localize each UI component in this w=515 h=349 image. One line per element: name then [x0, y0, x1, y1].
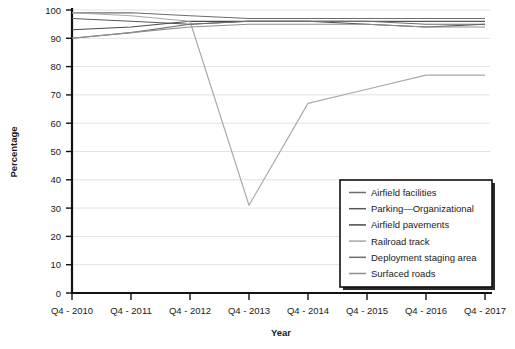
y-tick-label: 0 — [56, 288, 61, 299]
chart-canvas: 100 90 80 70 60 50 40 30 20 10 0 Percent… — [0, 0, 515, 349]
legend-entry-label: Railroad track — [371, 236, 430, 247]
x-tick-label: Q4 - 2014 — [287, 305, 329, 316]
legend-entry-label: Airfield facilities — [371, 187, 437, 198]
x-tick-label: Q4 - 2013 — [228, 305, 270, 316]
x-axis-title: Year — [271, 327, 291, 338]
y-tick-label: 100 — [45, 5, 61, 16]
legend-entry-label: Surfaced roads — [371, 268, 436, 279]
y-tick-labels: 100 90 80 70 60 50 40 30 20 10 0 — [45, 5, 61, 299]
x-tick-label: Q4 - 2015 — [346, 305, 388, 316]
y-tick-label: 70 — [50, 89, 61, 100]
y-tick-label: 80 — [50, 61, 61, 72]
y-tick-label: 30 — [50, 203, 61, 214]
x-tick-label: Q4 - 2012 — [169, 305, 211, 316]
x-tick-label: Q4 - 2011 — [110, 305, 152, 316]
y-tick-label: 60 — [50, 118, 61, 129]
x-tick-labels: Q4 - 2010 Q4 - 2011 Q4 - 2012 Q4 - 2013 … — [51, 305, 506, 316]
y-tick-label: 40 — [50, 174, 61, 185]
x-tick-label: Q4 - 2017 — [464, 305, 506, 316]
y-tick-label: 90 — [50, 33, 61, 44]
legend-entry-label: Deployment staging area — [371, 252, 477, 263]
series-layer — [72, 13, 485, 206]
legend-entry-label: Parking—Organizational — [371, 203, 474, 214]
legend-entry-label: Airfield pavements — [371, 219, 449, 230]
x-tick-label: Q4 - 2016 — [405, 305, 447, 316]
line-chart: 100 90 80 70 60 50 40 30 20 10 0 Percent… — [0, 0, 515, 349]
chart-legend: Airfield facilitiesParking—Organizationa… — [340, 180, 495, 290]
y-axis-title: Percentage — [8, 126, 19, 177]
y-tick-label: 20 — [50, 231, 61, 242]
y-tick-label: 10 — [50, 259, 61, 270]
y-tick-label: 50 — [50, 146, 61, 157]
series-line — [72, 13, 485, 206]
series-line — [72, 21, 485, 30]
x-tick-label: Q4 - 2010 — [51, 305, 93, 316]
